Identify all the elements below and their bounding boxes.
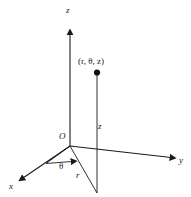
coordinate-diagram-canvas	[0, 0, 191, 197]
y-axis-line	[70, 146, 171, 158]
radius-label: r	[76, 171, 80, 180]
r-segment-line	[70, 146, 97, 193]
cylindrical-coordinates-figure: z (r, θ, z) z O y θ r x	[0, 0, 191, 197]
z-height-label: z	[98, 122, 102, 131]
origin-label: O	[59, 132, 66, 141]
theta-angle-label: θ	[59, 162, 63, 171]
z-axis-label: z	[66, 6, 70, 15]
x-axis-label: x	[9, 182, 13, 191]
theta-reference-ray	[46, 146, 70, 164]
y-axis-label: y	[179, 156, 183, 165]
point-coordinates-label: (r, θ, z)	[78, 57, 104, 66]
plotted-point-marker	[94, 69, 100, 75]
